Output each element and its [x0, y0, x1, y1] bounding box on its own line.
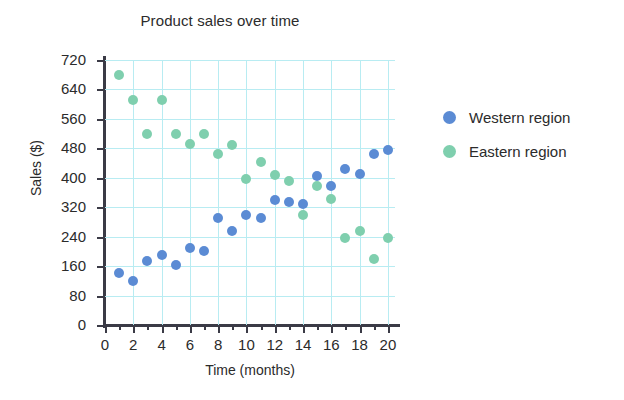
x-axis-tick	[190, 325, 192, 333]
x-axis-minor-tick	[345, 325, 347, 330]
data-point	[256, 157, 266, 167]
y-axis-tick-label: 0	[0, 316, 86, 333]
y-axis-tick	[97, 207, 105, 209]
gridline-vertical	[275, 60, 276, 325]
y-axis-tick-label: 640	[0, 80, 86, 97]
gridline-horizontal	[105, 207, 395, 208]
data-point	[227, 226, 237, 236]
data-point	[312, 171, 322, 181]
y-axis-tick	[97, 237, 105, 239]
data-point	[369, 254, 379, 264]
x-axis-minor-tick	[261, 325, 263, 330]
data-point	[142, 129, 152, 139]
x-axis-minor-tick	[317, 325, 319, 330]
x-axis-tick-label: 14	[288, 336, 318, 353]
data-point	[114, 268, 124, 278]
gridline-vertical	[388, 60, 389, 325]
data-point	[142, 256, 152, 266]
data-point	[171, 260, 181, 270]
data-point	[171, 129, 181, 139]
legend-item-label: Eastern region	[469, 143, 567, 160]
data-point	[128, 276, 138, 286]
y-axis-tick	[97, 89, 105, 91]
gridline-horizontal	[105, 266, 395, 267]
data-point	[157, 250, 167, 260]
gridline-vertical	[303, 60, 304, 325]
x-axis-tick	[360, 325, 362, 333]
data-point	[340, 164, 350, 174]
x-axis-minor-tick	[119, 325, 121, 330]
y-axis-tick	[97, 325, 105, 327]
legend-marker-icon	[443, 145, 456, 158]
data-point	[298, 199, 308, 209]
x-axis-minor-tick	[232, 325, 234, 330]
y-axis-tick	[97, 296, 105, 298]
data-point	[213, 149, 223, 159]
chart-legend: Western regionEastern region	[443, 100, 613, 168]
x-axis-tick-label: 20	[373, 336, 403, 353]
data-point	[284, 176, 294, 186]
x-axis-title: Time (months)	[105, 362, 395, 378]
x-axis-tick	[218, 325, 220, 333]
data-point	[199, 246, 209, 256]
gridline-horizontal	[105, 89, 395, 90]
x-axis-tick-label: 12	[260, 336, 290, 353]
x-axis-tick-label: 2	[118, 336, 148, 353]
x-axis-tick	[246, 325, 248, 333]
data-point	[298, 210, 308, 220]
y-axis-tick-label: 400	[0, 169, 86, 186]
y-axis-tick-label: 240	[0, 228, 86, 245]
data-point	[241, 210, 251, 220]
y-axis-tick-label: 480	[0, 139, 86, 156]
data-point	[312, 181, 322, 191]
y-axis-tick	[97, 148, 105, 150]
y-axis-tick-label: 720	[0, 51, 86, 68]
x-axis-tick-label: 18	[345, 336, 375, 353]
data-point	[114, 70, 124, 80]
data-point	[340, 233, 350, 243]
gridline-vertical	[218, 60, 219, 325]
gridline-horizontal	[105, 60, 395, 61]
x-axis-minor-tick	[374, 325, 376, 330]
data-point	[284, 197, 294, 207]
data-point	[326, 194, 336, 204]
data-point	[185, 243, 195, 253]
x-axis-tick-label: 6	[175, 336, 205, 353]
gridline-horizontal	[105, 119, 395, 120]
x-axis-tick	[303, 325, 305, 333]
data-point	[270, 170, 280, 180]
data-point	[355, 226, 365, 236]
gridline-horizontal	[105, 296, 395, 297]
scatter-chart: Product sales over time Sales ($) Time (…	[0, 0, 624, 400]
data-point	[241, 174, 251, 184]
y-axis-tick-label: 160	[0, 257, 86, 274]
x-axis-minor-tick	[147, 325, 149, 330]
y-axis-tick	[97, 119, 105, 121]
chart-title: Product sales over time	[0, 12, 440, 29]
y-axis-tick	[97, 178, 105, 180]
data-point	[270, 195, 280, 205]
gridline-vertical	[331, 60, 332, 325]
x-axis-tick	[331, 325, 333, 333]
data-point	[256, 213, 266, 223]
data-point	[185, 139, 195, 149]
data-point	[227, 140, 237, 150]
legend-marker-icon	[443, 111, 456, 124]
x-axis-tick-label: 8	[203, 336, 233, 353]
gridline-vertical	[246, 60, 247, 325]
gridline-vertical	[360, 60, 361, 325]
x-axis-minor-tick	[176, 325, 178, 330]
x-axis-tick	[105, 325, 107, 333]
data-point	[157, 95, 167, 105]
data-point	[383, 233, 393, 243]
data-point	[355, 169, 365, 179]
legend-item-label: Western region	[469, 109, 570, 126]
x-axis-tick	[133, 325, 135, 333]
x-axis-tick-label: 10	[231, 336, 261, 353]
x-axis-minor-tick	[289, 325, 291, 330]
data-point	[128, 95, 138, 105]
legend-item[interactable]: Eastern region	[443, 134, 613, 168]
x-axis-tick	[275, 325, 277, 333]
gridline-horizontal	[105, 148, 395, 149]
legend-item[interactable]: Western region	[443, 100, 613, 134]
